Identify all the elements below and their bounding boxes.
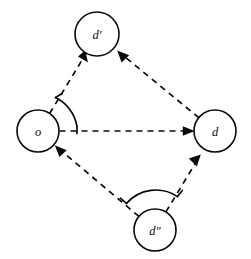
graph-svg: d′ o d d″	[0, 0, 251, 259]
edge-ddprime-to-o	[55, 145, 139, 216]
edge-d-to-dprime-line	[119, 52, 199, 117]
node-d[interactable]: d	[194, 110, 236, 152]
arrowhead-into-o-from-ddprime	[55, 145, 67, 157]
node-o-label: o	[35, 125, 41, 139]
edge-d-to-dprime	[117, 51, 199, 118]
node-ddprime-label: d″	[149, 224, 161, 238]
edge-o-to-dprime-line	[50, 53, 87, 114]
node-d-label: d	[212, 125, 219, 139]
edge-ddprime-to-o-line	[57, 147, 139, 216]
edge-o-to-dprime	[50, 50, 88, 113]
angle-arc-at-o-tick-start	[56, 94, 63, 98]
arrowhead-into-dprime-from-d	[117, 51, 129, 63]
node-dprime[interactable]: d′	[75, 12, 119, 56]
angle-arc-at-o-path	[56, 98, 78, 127]
node-o[interactable]: o	[17, 110, 59, 152]
diagram-canvas: d′ o d d″	[0, 0, 251, 259]
edge-ddprime-to-d	[166, 154, 201, 212]
angle-arc-at-ddprime-path	[127, 190, 178, 203]
node-ddprime[interactable]: d″	[134, 209, 176, 251]
edge-ddprime-to-d-line	[166, 157, 199, 212]
arrowhead-into-d-from-o	[183, 126, 195, 135]
edge-o-to-d	[60, 126, 195, 135]
node-dprime-label: d′	[93, 28, 102, 42]
